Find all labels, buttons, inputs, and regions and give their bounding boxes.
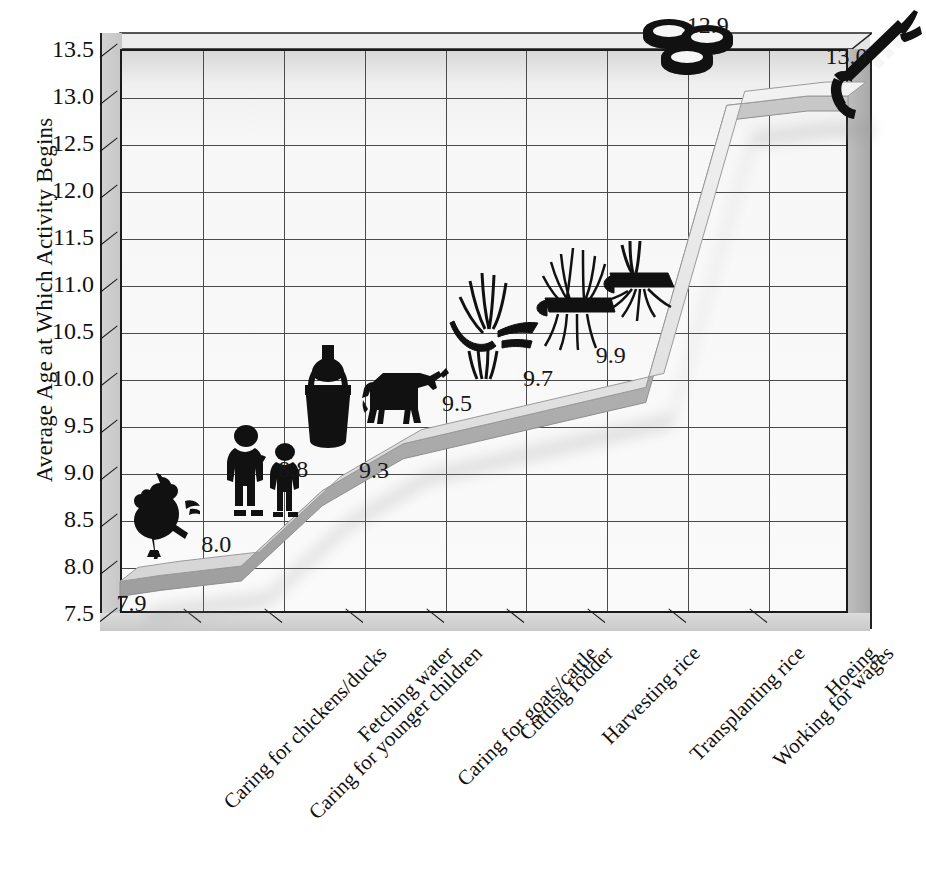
- y-tick-label: 10.0: [36, 366, 94, 390]
- data-value-label: 9.5: [442, 391, 472, 415]
- y-tick-label: 13.0: [36, 84, 94, 108]
- y-tick-label: 8.0: [36, 554, 94, 578]
- x-category-label: Caring for younger children: [304, 641, 488, 825]
- y-tick-label: 10.5: [36, 319, 94, 343]
- y-tick-label: 11.0: [36, 272, 94, 296]
- data-value-label: 7.9: [116, 591, 146, 615]
- y-tick-label: 11.5: [36, 225, 94, 249]
- y-tick-label: 12.5: [36, 131, 94, 155]
- data-value-label: 9.9: [596, 343, 626, 367]
- rice-seedling-icon: [596, 239, 688, 337]
- data-value-label: 13.0: [826, 44, 868, 68]
- data-value-label: 9.7: [523, 366, 553, 390]
- data-value-label: 12.9: [687, 13, 729, 37]
- y-tick-label: 7.5: [36, 601, 94, 625]
- water-vessel-icon: [288, 343, 368, 451]
- y-tick-label: 13.5: [36, 37, 94, 61]
- y-tick-label: 12.0: [36, 178, 94, 202]
- rooster-icon: [116, 473, 200, 559]
- y-tick-label: 9.5: [36, 413, 94, 437]
- data-value-label: 8.0: [201, 532, 231, 556]
- y-tick-label: 8.5: [36, 507, 94, 531]
- data-value-label: 8.8: [278, 457, 308, 481]
- data-value-label: 9.3: [359, 458, 389, 482]
- chart-top-cap: [120, 33, 870, 49]
- y-tick-label: 9.0: [36, 460, 94, 484]
- chart-floor-band: [100, 613, 870, 631]
